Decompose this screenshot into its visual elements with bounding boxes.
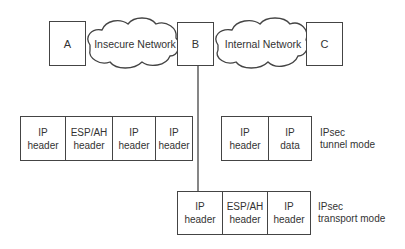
packet-cell: ESP/AH header xyxy=(65,117,112,160)
cell-line: IP xyxy=(38,126,47,139)
packet-cell: IP data xyxy=(268,117,311,160)
packet-cell: IP header xyxy=(178,192,222,234)
tunnel-mode-label: IPsec tunnel mode xyxy=(320,127,375,151)
cell-line: ESP/AH xyxy=(227,200,264,213)
node-c-label: C xyxy=(321,38,329,50)
cell-line: header xyxy=(229,213,260,226)
node-c: C xyxy=(306,22,343,66)
node-b: B xyxy=(177,22,214,66)
cell-line: IP xyxy=(129,126,138,139)
tunnel-inner-packet: IP header IP data xyxy=(221,116,312,161)
packet-cell: IP header xyxy=(112,117,155,160)
cell-line: header xyxy=(158,139,189,152)
packet-cell: IP header xyxy=(155,117,192,160)
packet-cell: IP header xyxy=(267,192,310,234)
cell-line: ESP/AH xyxy=(71,126,108,139)
transport-packet: IP header ESP/AH header IP header xyxy=(177,191,311,235)
cloud-insecure-label: Insecure Network xyxy=(94,38,176,50)
cell-line: data xyxy=(280,139,299,152)
label-line: IPsec xyxy=(320,127,375,139)
cell-line: IP xyxy=(169,126,178,139)
packet-cell: IP header xyxy=(21,117,65,160)
packet-cell: ESP/AH header xyxy=(222,192,267,234)
cloud-internal-network: Internal Network xyxy=(218,30,308,58)
cell-line: IP xyxy=(195,200,204,213)
node-b-label: B xyxy=(192,38,199,50)
tunnel-outer-packet: IP header ESP/AH header IP header IP hea… xyxy=(20,116,193,161)
label-line: transport mode xyxy=(318,213,385,225)
cloud-insecure-network: Insecure Network xyxy=(92,30,178,58)
cell-line: IP xyxy=(240,126,249,139)
cell-line: header xyxy=(273,213,304,226)
cell-line: header xyxy=(73,139,104,152)
transport-mode-label: IPsec transport mode xyxy=(318,201,385,225)
cell-line: header xyxy=(118,139,149,152)
cloud-internal-label: Internal Network xyxy=(225,38,301,50)
node-a-label: A xyxy=(64,38,71,50)
cell-line: IP xyxy=(284,200,293,213)
cell-line: header xyxy=(229,139,260,152)
packet-cell: IP header xyxy=(222,117,268,160)
cell-line: header xyxy=(184,213,215,226)
node-a: A xyxy=(49,21,86,66)
label-line: tunnel mode xyxy=(320,139,375,151)
cell-line: IP xyxy=(285,126,294,139)
label-line: IPsec xyxy=(318,201,385,213)
cell-line: header xyxy=(27,139,58,152)
